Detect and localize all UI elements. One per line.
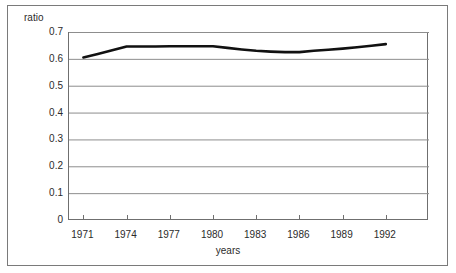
y-tick-label: 0.1 — [19, 188, 63, 198]
y-tick-label: 0.6 — [19, 54, 63, 64]
y-tick-label: 0.4 — [19, 108, 63, 118]
x-axis-tick-marks — [84, 215, 387, 220]
series-ratio — [83, 44, 385, 57]
y-tick-label: 0.2 — [19, 161, 63, 171]
x-tick-label: 1989 — [322, 229, 362, 240]
y-tick-label: 0.3 — [19, 134, 63, 144]
chart-screenshot: ratio 0.70.60.50.40.30.20.10 19711974197… — [0, 0, 456, 273]
y-tick-label: 0 — [19, 215, 63, 225]
y-axis-title: ratio — [24, 12, 43, 24]
x-tick-label: 1974 — [106, 229, 146, 240]
x-tick-label: 1980 — [192, 229, 232, 240]
chart-canvas — [69, 32, 429, 220]
x-tick-label: 1983 — [235, 229, 275, 240]
x-axis-title: years — [0, 245, 456, 257]
data-series-line — [83, 44, 385, 57]
y-tick-label: 0.7 — [19, 27, 63, 37]
x-tick-label: 1992 — [365, 229, 405, 240]
gridlines — [69, 33, 429, 194]
y-tick-label: 0.5 — [19, 81, 63, 91]
x-tick-label: 1971 — [62, 229, 102, 240]
x-tick-label: 1986 — [278, 229, 318, 240]
x-tick-label: 1977 — [149, 229, 189, 240]
plot-area — [68, 32, 428, 220]
